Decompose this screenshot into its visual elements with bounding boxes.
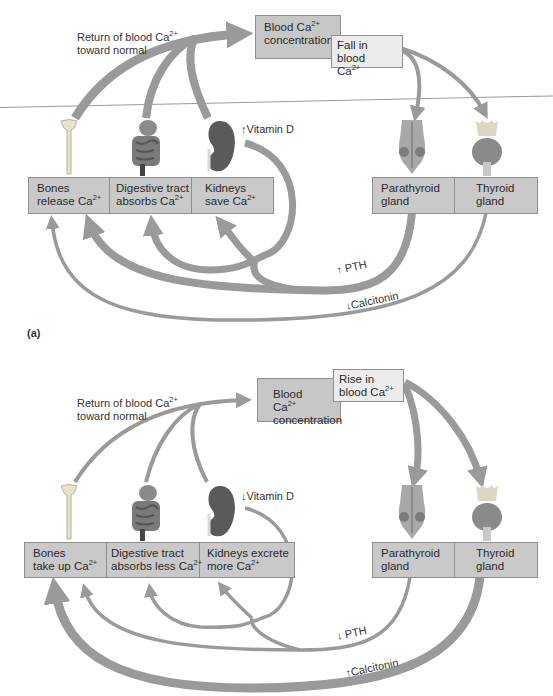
digestive-cell-a: Digestive tractabsorbs Ca2+ <box>110 178 192 213</box>
thyroid-icon <box>470 118 504 176</box>
digestive-tract-icon <box>126 118 164 178</box>
kidney-icon <box>203 484 237 540</box>
rise-box: Rise in blood Ca2+ <box>333 369 404 402</box>
parathyroid-cell-b: Parathyroidgland <box>373 543 455 577</box>
parathyroid-cell-a: Parathyroidgland <box>373 178 455 213</box>
thyroid-cell-a: Thyroidgland <box>455 178 537 213</box>
bones-cell-b: Bonestake up Ca2+ <box>25 543 107 577</box>
panel-label-a: (a) <box>27 327 40 339</box>
thyroid-cell-b: Thyroidgland <box>455 543 537 577</box>
blood-ca-box-b: Blood Ca2+ concentration <box>257 378 341 422</box>
parathyroid-icon <box>394 483 430 541</box>
kidneys-cell-b: Kidneys excretemore Ca2+ <box>200 543 294 577</box>
kidneys-cell-a: Kidneyssave Ca2+ <box>192 178 273 213</box>
glands-row-b: Parathyroidgland Thyroidgland <box>372 542 538 578</box>
parathyroid-icon <box>394 118 430 176</box>
digestive-cell-b: Digestive tractabsorbs less Ca2+ <box>107 543 200 577</box>
bones-cell-a: Bonesrelease Ca2+ <box>29 178 110 213</box>
vitamin-d-label-a: ↑Vitamin D <box>241 123 294 136</box>
effectors-row-b: Bonestake up Ca2+ Digestive tractabsorbs… <box>24 542 295 578</box>
bone-icon <box>58 483 80 541</box>
fall-box: Fall in blood Ca2+ <box>331 35 403 68</box>
digestive-tract-icon <box>126 483 164 543</box>
kidney-icon <box>203 119 237 175</box>
return-label-a: Return of blood Ca2+ toward normal <box>77 31 178 57</box>
vitamin-d-label-b: ↓Vitamin D <box>241 490 294 503</box>
effectors-row-a: Bonesrelease Ca2+ Digestive tractabsorbs… <box>28 177 274 214</box>
bone-icon <box>58 118 80 176</box>
return-label-b: Return of blood Ca2+ toward normal <box>77 397 178 423</box>
glands-row-a: Parathyroidgland Thyroidgland <box>372 177 538 214</box>
blood-ca-box-a: Blood Ca2+ concentration <box>255 15 341 59</box>
thyroid-icon <box>470 483 504 541</box>
